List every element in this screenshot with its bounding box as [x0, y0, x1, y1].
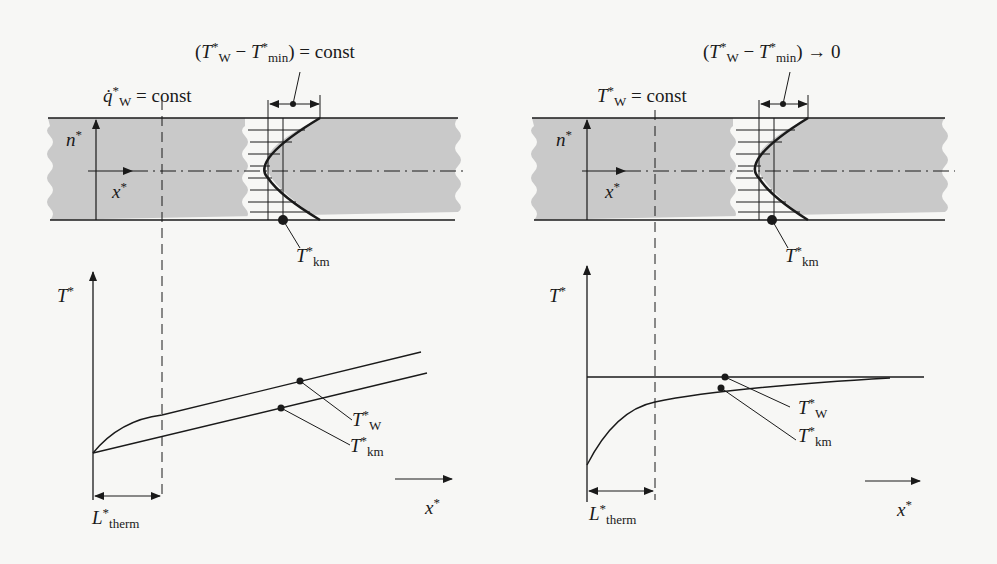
right-graph-y-label: T*: [549, 284, 566, 305]
sub-min: min: [268, 50, 288, 65]
sub-min: min: [776, 50, 796, 65]
left-profile-point-label: T*km: [296, 244, 330, 268]
star: *: [905, 497, 912, 512]
t-symbol: T: [201, 41, 212, 62]
right-graph: [587, 266, 924, 502]
t-symbol: T: [251, 41, 262, 62]
minus: −: [739, 41, 759, 62]
l-symbol: L: [92, 507, 103, 528]
left-graph-tkm-label: T*km: [350, 434, 384, 458]
star: *: [566, 127, 573, 142]
right-graph-tkm-label: T*km: [798, 424, 832, 448]
sub-w: W: [218, 50, 230, 65]
left-graph-length-label: L*therm: [92, 506, 139, 530]
t-symbol: T: [709, 41, 720, 62]
star: *: [560, 283, 567, 298]
sub-km: km: [815, 434, 832, 449]
t-symbol: T: [759, 41, 770, 62]
star: *: [76, 127, 83, 142]
sub-km: km: [367, 444, 384, 459]
sub-w: W: [119, 94, 131, 109]
right-graph-length-label: L*therm: [589, 502, 636, 526]
t-symbol: T: [597, 85, 608, 106]
right-graph-bulk-temp-curve: [587, 378, 890, 465]
right-channel: [531, 72, 955, 248]
right-graph-tw-label: T*W: [798, 396, 827, 420]
right-graph-x-label: x*: [897, 498, 912, 519]
star: *: [120, 179, 127, 194]
left-graph-y-label: T*: [57, 284, 74, 305]
left-graph: [93, 272, 452, 500]
equals-const: = const: [626, 85, 686, 106]
left-graph-tw-label: T*W: [352, 408, 381, 432]
equals-const: = const: [131, 85, 191, 106]
equals-const: ) = const: [288, 41, 355, 62]
t-symbol: T: [785, 245, 796, 266]
t-symbol: T: [350, 435, 361, 456]
minus: −: [231, 41, 251, 62]
sub-w: W: [614, 94, 626, 109]
n-symbol: n: [556, 129, 566, 150]
t-symbol: T: [57, 285, 68, 306]
t-symbol: T: [798, 425, 809, 446]
qdot-symbol: q̇: [103, 85, 113, 106]
left-n-axis-label: n*: [66, 128, 82, 149]
right-panel-title: (T*W − T*min) → 0: [703, 40, 841, 64]
right-boundary-condition: T*W = const: [597, 84, 687, 108]
l-symbol: L: [589, 503, 600, 524]
t-symbol: T: [549, 285, 560, 306]
sub-w: W: [369, 418, 381, 433]
sub-w: W: [815, 406, 827, 421]
sub-km: km: [802, 254, 819, 269]
t-symbol: T: [296, 245, 307, 266]
arrow-zero: ) → 0: [796, 41, 840, 62]
sub-w: W: [726, 50, 738, 65]
left-graph-x-label: x*: [425, 496, 440, 517]
left-panel-title: (T*W − T*min) = const: [195, 40, 355, 64]
star: *: [433, 495, 440, 510]
t-symbol: T: [798, 397, 809, 418]
right-x-axis-label: x*: [605, 180, 620, 201]
left-boundary-condition: q̇*W = const: [103, 84, 192, 108]
left-x-axis-label: x*: [112, 180, 127, 201]
sub-therm: therm: [606, 512, 636, 527]
sub-therm: therm: [109, 516, 139, 531]
right-n-axis-label: n*: [556, 128, 572, 149]
right-profile-point-label: T*km: [785, 244, 819, 268]
t-symbol: T: [352, 409, 363, 430]
n-symbol: n: [66, 129, 76, 150]
star: *: [613, 179, 620, 194]
sub-km: km: [313, 254, 330, 269]
star: *: [68, 283, 75, 298]
